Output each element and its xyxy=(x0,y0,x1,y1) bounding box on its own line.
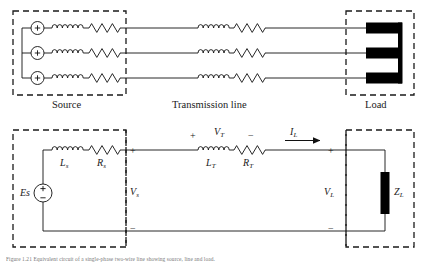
circuit-svg xyxy=(0,0,426,264)
section-label-source: Source xyxy=(52,100,81,111)
label-zl-base: Z xyxy=(394,186,400,197)
label-il: IL xyxy=(290,127,297,139)
label-vl-sub: L xyxy=(330,191,334,199)
eq-line-resistor-icon xyxy=(234,146,265,155)
label-lt-sub: T xyxy=(212,162,216,170)
label-lt-base: L xyxy=(206,157,212,168)
label-rt-sub: T xyxy=(249,162,253,170)
line-inductor-icon xyxy=(198,75,229,78)
source-inductor-icon xyxy=(52,75,83,78)
source-inductor-icon xyxy=(52,50,83,53)
line-resistor-icon xyxy=(234,49,265,58)
load-bar xyxy=(366,73,402,84)
source-resistor-icon xyxy=(89,74,120,83)
label-lt: LT xyxy=(206,158,216,170)
line-resistor-icon xyxy=(234,74,265,83)
eq-source-inductor-icon xyxy=(52,147,83,150)
source-resistor-icon xyxy=(89,24,120,33)
vs-minus-sign: − xyxy=(130,224,136,234)
label-vs: Vs xyxy=(130,187,139,199)
vt-plus-sign: + xyxy=(190,131,196,141)
section-label-transmission-line: Transmission line xyxy=(172,100,247,111)
figure-canvas: Source Transmission line Load Es Ls Rs L… xyxy=(0,0,426,264)
label-ls: Ls xyxy=(60,158,68,170)
load-bar xyxy=(366,23,402,34)
label-rs-sub: s xyxy=(103,162,106,170)
load-tie-bar xyxy=(398,23,403,84)
label-vl: VL xyxy=(324,187,334,199)
eq-load-dashed-box xyxy=(346,130,414,247)
top-phase-2 xyxy=(22,47,402,60)
label-rt: RT xyxy=(243,158,253,170)
top-phase-1 xyxy=(22,22,402,35)
vl-plus-sign: + xyxy=(328,146,334,156)
load-bar xyxy=(366,48,402,59)
eq-source-resistor-icon xyxy=(89,146,120,155)
label-vt: VT xyxy=(214,127,224,139)
label-vt-sub: T xyxy=(220,131,224,139)
label-zl: ZL xyxy=(394,187,404,199)
section-label-load: Load xyxy=(365,100,387,111)
top-diagram xyxy=(13,11,414,95)
label-vs-sub: s xyxy=(136,191,139,199)
label-ls-base: L xyxy=(60,157,66,168)
bottom-diagram xyxy=(13,130,414,247)
label-il-sub: L xyxy=(293,131,297,139)
vt-minus-sign: − xyxy=(248,131,254,141)
vl-minus-sign: − xyxy=(328,224,334,234)
line-resistor-icon xyxy=(234,24,265,33)
label-ls-sub: s xyxy=(66,162,69,170)
line-inductor-icon xyxy=(198,50,229,53)
eq-line-inductor-icon xyxy=(198,147,229,150)
vs-plus-sign: + xyxy=(130,146,136,156)
line-inductor-icon xyxy=(198,25,229,28)
label-rs: Rs xyxy=(97,158,106,170)
label-es: Es xyxy=(20,188,30,198)
label-zl-sub: L xyxy=(400,191,404,199)
source-resistor-icon xyxy=(89,49,120,58)
zl-impedance-block xyxy=(381,172,390,214)
top-phase-3 xyxy=(22,72,402,85)
source-inductor-icon xyxy=(52,25,83,28)
figure-caption: Figure 1.21 Equivalent circuit of a sing… xyxy=(6,256,420,264)
